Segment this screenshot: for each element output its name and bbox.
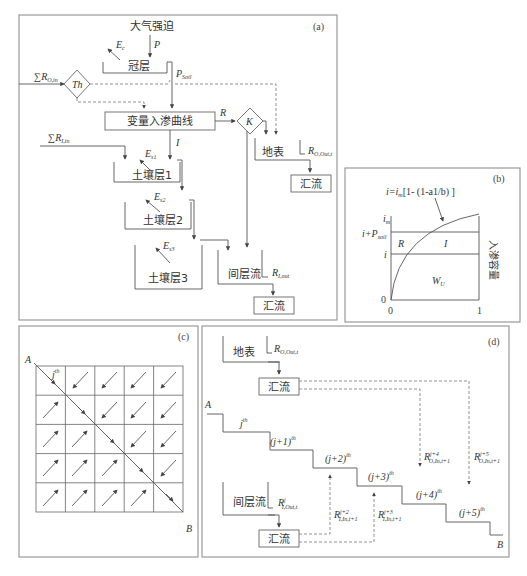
y-label-0: 0 (381, 294, 386, 305)
es1-label: Es1 (144, 148, 156, 160)
r-i-in-arrow (40, 146, 125, 159)
surface-label-d: 地表 (233, 345, 255, 359)
soil-layer-3-label: 土壤层3 (148, 271, 188, 285)
th-to-curve-dash (77, 98, 144, 108)
confluence-label-1: 汇流 (300, 177, 322, 191)
r-o4-label: Rj+4O,In,t+1 (423, 451, 450, 464)
surface-to-confluence-arrow-d (268, 362, 279, 374)
r-i3-label: Rj+3I,In,t+1 (377, 509, 402, 522)
infiltration-capacity-axis-label: 入渗容量 (488, 240, 500, 280)
interflow-label-d: 间层流 (233, 495, 266, 509)
formula-pointer-arrow (435, 198, 443, 221)
infiltration-label: I (175, 137, 180, 148)
step-j5-label: (j+5)th (459, 506, 485, 519)
panel-c-tag: (c) (178, 331, 189, 343)
interflow-label: 间层流 (228, 267, 261, 281)
r-o5-label: Rj+5O,In,t+1 (473, 451, 500, 464)
precip-label: P (153, 39, 160, 50)
atmospheric-forcing-label: 大气强迫 (130, 19, 174, 33)
canopy-label: 冠层 (128, 60, 150, 73)
point-a-label-d: A (204, 399, 212, 410)
r-i-out-label: RI,out (271, 267, 290, 279)
dash-to-j4 (299, 389, 420, 466)
cell-j-label: jth (50, 368, 59, 380)
hydrology-figure: (a) 大气强迫 P 冠层 Ec PSoil ∑RO,in Th 变量入渗曲线 … (0, 0, 527, 576)
step-j2-label: (j+2)th (325, 452, 351, 465)
region-r-label: R (397, 238, 404, 249)
surface-outlet (300, 140, 305, 154)
soil1-to-soil2-arrow (177, 160, 182, 190)
soil-layer-2-label: 土壤层2 (143, 213, 183, 227)
y-label-im: im (383, 213, 391, 225)
es3-label: Es3 (162, 240, 174, 252)
step-j4-label: (j+4)th (416, 488, 442, 501)
panel-b-tag: (b) (493, 173, 505, 185)
panel-d: (d) 地表 RO,Out,t 汇流 A B jth (j+1)th (j+2)… (202, 326, 509, 557)
interflow-to-confluence-arrow (268, 284, 273, 295)
dash-to-j2 (299, 475, 330, 534)
runoff-label: R (219, 107, 226, 118)
panel-d-tag: (d) (488, 336, 500, 348)
soil2-to-soil3-arrow (189, 200, 194, 239)
infiltration-curve-label: 变量入渗曲线 (127, 114, 193, 128)
p-soil-line (167, 62, 172, 108)
step-j1-label: (j+1)th (270, 435, 296, 448)
point-a-label: A (24, 354, 32, 365)
step-j3-label: (j+3)th (368, 470, 394, 483)
formula-label: i=im[1- (1-a1/b) ] (386, 186, 455, 198)
th-to-psoil-dash (90, 80, 170, 84)
sum-r-i-in-label: ∑RI,in (48, 132, 69, 144)
surface-outlet-d (267, 336, 272, 353)
canopy-evap-arrow (108, 49, 120, 60)
point-b-label-d: B (497, 539, 503, 550)
k-to-surface-arrow (263, 121, 266, 134)
soil-layer-1-label: 土壤层1 (132, 168, 172, 182)
r-bottom-label: RjI,Out,t (277, 497, 298, 510)
confluence-top-label: 汇流 (268, 380, 290, 394)
region-i-label: I (443, 238, 448, 249)
surface-to-confluence-arrow (305, 160, 310, 172)
surface-label: 地表 (262, 145, 284, 159)
x-label-0: 0 (388, 305, 393, 316)
x-label-1: 1 (477, 305, 482, 316)
soil3-to-interflow-arrow (200, 240, 228, 250)
step-j-label: jth (238, 417, 247, 429)
y-label-i-plus-psoil: i+Psoil (362, 228, 387, 240)
infiltration-capacity-curve (391, 214, 479, 300)
panel-a-tag: (a) (313, 21, 324, 33)
confluence-label-2: 汇流 (263, 299, 285, 313)
interflow-outlet-d (268, 482, 273, 508)
panel-c: (c) (19, 326, 198, 557)
panel-c-frame (19, 326, 198, 557)
k-label: K (245, 116, 254, 127)
r-i2-label: Rj+2I,In,t+1 (333, 509, 358, 522)
interflow-outlet (262, 250, 268, 277)
confluence-bottom-label: 汇流 (268, 532, 290, 546)
region-wu-label: WU (432, 275, 445, 287)
panel-b: (b) i=im[1- (1-a1/b) ] im i+Psoil i 0 0 … (345, 168, 520, 322)
canopy-evap-label: Ec (115, 39, 125, 51)
point-b-label: B (186, 523, 192, 534)
es2-label: Es2 (153, 191, 165, 203)
p-soil-label: PSoil (175, 68, 192, 80)
r-o-out-label: RO,Out,t (307, 145, 332, 157)
threshold-label: Th (72, 79, 83, 90)
r-top-label: RO,Out,t (273, 343, 298, 355)
interflow-to-confluence-arrow-d (268, 515, 279, 527)
panel-a: (a) 大气强迫 P 冠层 Ec PSoil ∑RO,in Th 变量入渗曲线 … (19, 15, 337, 320)
dash-to-j5 (299, 381, 469, 484)
sum-r-o-in-label: ∑RO,in (34, 71, 58, 83)
y-label-i: i (384, 249, 387, 260)
